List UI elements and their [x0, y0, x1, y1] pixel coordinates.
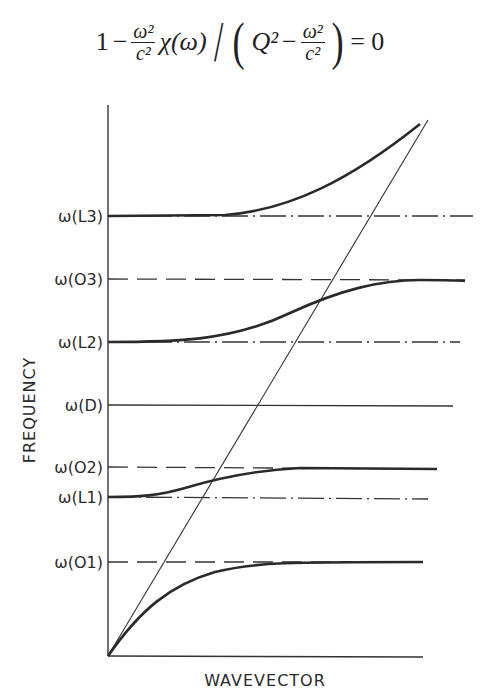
level-line-L1 — [108, 497, 428, 499]
label-O1: ω(O1) — [54, 553, 103, 572]
label-O2: ω(O2) — [54, 458, 103, 477]
branch-2-curve — [108, 468, 437, 497]
label-L2: ω(L2) — [58, 333, 103, 352]
x-axis-title: WAVEVECTOR — [204, 671, 326, 690]
label-O3: ω(O3) — [54, 270, 103, 289]
label-D: ω(D) — [65, 396, 103, 415]
label-L1: ω(L1) — [58, 488, 103, 507]
light-line — [108, 120, 428, 656]
level-line-D — [108, 405, 453, 406]
branch-4-curve — [108, 124, 420, 216]
x-axis — [108, 656, 423, 657]
branch-3-curve — [108, 280, 465, 342]
y-axis-title: FREQUENCY — [20, 357, 39, 463]
dispersion-plot: ω(L3) ω(O3) ω(L2) ω(D) ω(O2) ω(L1) ω(O1)… — [0, 0, 480, 694]
label-L3: ω(L3) — [58, 207, 103, 226]
